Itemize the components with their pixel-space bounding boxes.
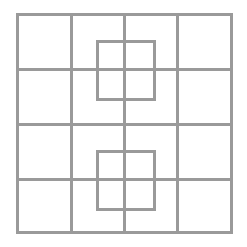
upper-inner-square xyxy=(96,40,156,101)
grid-horizontal-line-4 xyxy=(16,231,233,234)
grid-diagram xyxy=(0,0,247,247)
grid-horizontal-line-2 xyxy=(16,123,233,126)
grid-horizontal-line-0 xyxy=(16,13,233,16)
lower-inner-square xyxy=(96,150,156,211)
